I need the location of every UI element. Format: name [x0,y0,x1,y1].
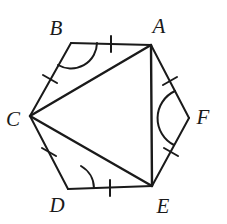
vertex-label-C: C [6,109,20,130]
angle-arc-D [81,166,94,188]
tick-AF-icon [163,77,177,85]
tick-CD-icon [42,148,56,156]
vertex-label-F: F [197,107,210,128]
vertex-label-E: E [157,196,170,217]
vertex-label-D: D [49,195,64,216]
diagonals [30,45,152,186]
geometry-canvas [0,0,227,224]
vertex-label-B: B [50,18,63,39]
geometry-figure: A B C D E F [0,0,227,224]
angle-arc-F [158,91,175,145]
diagonal-CA [30,45,151,116]
diagonal-AE [151,45,152,186]
vertex-label-A: A [153,16,166,37]
hexagon-sides [30,43,189,189]
